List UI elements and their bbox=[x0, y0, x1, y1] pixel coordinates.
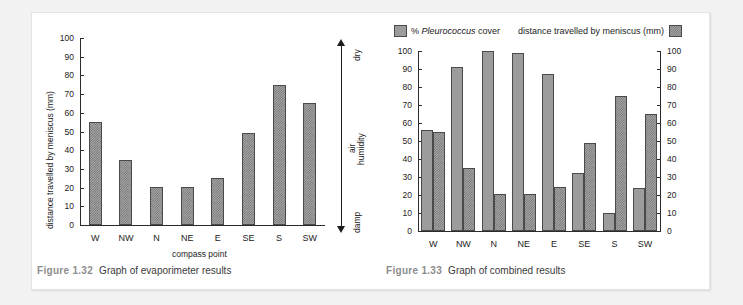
legend-swatch-solid bbox=[394, 25, 407, 37]
y-tick-label-right-chart-right: 20 bbox=[667, 191, 693, 200]
y-tick-mark-right-chart-right bbox=[657, 159, 660, 160]
figure-1-32: distance travelled by meniscus (mm) comp… bbox=[32, 13, 372, 291]
y-tick-label-left-chart: 40 bbox=[46, 146, 74, 155]
figure-1-33: % Pleurococcus coverdistance travelled b… bbox=[372, 13, 711, 291]
bar-left-chart bbox=[273, 85, 286, 225]
x-axis-title-left-chart: compass point bbox=[172, 250, 227, 259]
y-tick-label-right-chart-right: 0 bbox=[667, 227, 693, 236]
caption-number: Figure 1.32 bbox=[37, 265, 93, 276]
y-tick-mark-right-chart-right bbox=[657, 123, 660, 124]
y-tick-mark-right-chart-left bbox=[419, 51, 422, 52]
arrow-head-up-icon bbox=[337, 39, 345, 46]
y-tick-label-right-chart-left: 30 bbox=[386, 173, 412, 182]
y-tick-label-left-chart: 90 bbox=[46, 53, 74, 62]
bar-right-chart-dotted bbox=[433, 132, 445, 231]
y-tick-mark-left-chart bbox=[81, 132, 84, 133]
legend-item: distance travelled by meniscus (mm) bbox=[518, 25, 682, 37]
y-tick-label-left-chart: 20 bbox=[46, 184, 74, 193]
bar-left-chart bbox=[150, 187, 163, 225]
y-tick-label-right-chart-right: 10 bbox=[667, 209, 693, 218]
page-background: distance travelled by meniscus (mm) comp… bbox=[0, 0, 743, 305]
arrow-head-down-icon bbox=[337, 226, 345, 233]
y-tick-mark-right-chart-right bbox=[657, 141, 660, 142]
bar-right-chart-solid bbox=[633, 188, 645, 231]
humidity-label-damp: damp bbox=[353, 212, 362, 233]
y-tick-label-left-chart: 0 bbox=[46, 221, 74, 230]
y-tick-label-right-chart-right: 50 bbox=[667, 137, 693, 146]
y-tick-mark-right-chart-right bbox=[657, 177, 660, 178]
bar-right-chart-solid bbox=[421, 130, 433, 231]
y-tick-mark-right-chart-right bbox=[657, 51, 660, 52]
bar-left-chart bbox=[89, 122, 102, 225]
y-tick-label-left-chart: 100 bbox=[46, 34, 74, 43]
y-tick-label-right-chart-left: 0 bbox=[386, 227, 412, 236]
y-tick-mark-right-chart-left bbox=[419, 231, 422, 232]
y-tick-label-right-chart-left: 80 bbox=[386, 83, 412, 92]
legend-swatch-dotted bbox=[669, 25, 682, 37]
figure-card: distance travelled by meniscus (mm) comp… bbox=[31, 12, 710, 290]
bar-right-chart-dotted bbox=[615, 96, 627, 231]
bar-left-chart bbox=[242, 133, 255, 225]
y-tick-mark-left-chart bbox=[81, 206, 84, 207]
y-tick-mark-left-chart bbox=[81, 169, 84, 170]
caption-figure-1-32: Figure 1.32Graph of evaporimeter results bbox=[37, 266, 231, 276]
y-tick-label-right-chart-right: 80 bbox=[667, 83, 693, 92]
bar-right-chart-dotted bbox=[463, 168, 475, 231]
humidity-label-dry: dry bbox=[353, 49, 362, 61]
x-category-label-left-chart: SW bbox=[290, 234, 330, 243]
y-tick-label-right-chart-left: 90 bbox=[386, 65, 412, 74]
y-tick-label-right-chart-right: 70 bbox=[667, 101, 693, 110]
x-axis-line-left-chart bbox=[80, 225, 325, 226]
caption-text: Graph of evaporimeter results bbox=[99, 265, 231, 276]
bar-left-chart bbox=[181, 187, 194, 225]
bar-right-chart-solid bbox=[512, 53, 524, 231]
legend-label-italic: Pleurococcus bbox=[422, 26, 476, 36]
bar-left-chart bbox=[303, 103, 316, 225]
y-tick-mark-left-chart bbox=[81, 225, 84, 226]
bar-right-chart-dotted bbox=[554, 187, 566, 231]
plot-area-left-chart bbox=[80, 38, 325, 225]
y-tick-label-left-chart: 80 bbox=[46, 71, 74, 80]
y-tick-mark-right-chart-right bbox=[657, 105, 660, 106]
y-tick-mark-right-chart-right bbox=[657, 231, 660, 232]
y-tick-label-left-chart: 30 bbox=[46, 165, 74, 174]
y-tick-mark-right-chart-right bbox=[657, 213, 660, 214]
caption-text: Graph of combined results bbox=[448, 265, 565, 276]
bar-left-chart bbox=[211, 178, 224, 225]
bar-right-chart-solid bbox=[572, 173, 584, 231]
legend-label: % Pleurococcus cover bbox=[411, 26, 500, 36]
legend-label: distance travelled by meniscus (mm) bbox=[518, 26, 664, 36]
bar-right-chart-dotted bbox=[584, 143, 596, 231]
y-tick-mark-left-chart bbox=[81, 150, 84, 151]
x-category-label-right-chart: SW bbox=[625, 240, 665, 249]
x-axis-line-right-chart bbox=[418, 231, 660, 232]
y-tick-mark-left-chart bbox=[81, 38, 84, 39]
y-tick-label-right-chart-right: 40 bbox=[667, 155, 693, 164]
y-tick-label-right-chart-left: 20 bbox=[386, 191, 412, 200]
y-tick-mark-left-chart bbox=[81, 188, 84, 189]
y-tick-mark-right-chart-left bbox=[419, 69, 422, 70]
y-tick-mark-right-chart-left bbox=[419, 105, 422, 106]
arrow-shaft bbox=[341, 46, 342, 226]
y-tick-mark-left-chart bbox=[81, 113, 84, 114]
air-humidity-arrow bbox=[336, 38, 348, 234]
bar-right-chart-solid bbox=[451, 67, 463, 231]
y-tick-label-right-chart-left: 40 bbox=[386, 155, 412, 164]
y-axis-line-right-chart-right bbox=[660, 51, 661, 232]
y-tick-label-right-chart-right: 90 bbox=[667, 65, 693, 74]
y-tick-label-right-chart-right: 30 bbox=[667, 173, 693, 182]
y-tick-label-left-chart: 10 bbox=[46, 202, 74, 211]
legend-item: % Pleurococcus cover bbox=[394, 25, 500, 37]
bar-right-chart-solid bbox=[542, 74, 554, 231]
y-tick-label-right-chart-left: 100 bbox=[386, 47, 412, 56]
y-tick-mark-right-chart-left bbox=[419, 123, 422, 124]
y-tick-label-right-chart-left: 70 bbox=[386, 101, 412, 110]
y-tick-mark-right-chart-right bbox=[657, 69, 660, 70]
y-tick-mark-left-chart bbox=[81, 75, 84, 76]
legend-combined-results: % Pleurococcus coverdistance travelled b… bbox=[394, 25, 682, 37]
caption-number: Figure 1.33 bbox=[386, 265, 442, 276]
y-tick-label-right-chart-left: 60 bbox=[386, 119, 412, 128]
y-tick-mark-right-chart-right bbox=[657, 195, 660, 196]
y-tick-label-right-chart-right: 60 bbox=[667, 119, 693, 128]
y-tick-label-left-chart: 60 bbox=[46, 109, 74, 118]
